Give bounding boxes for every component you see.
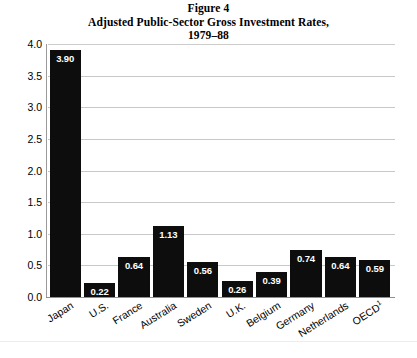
bar-value-label: 0.64 [325, 260, 356, 271]
bar-value-label: 3.90 [50, 53, 81, 64]
y-axis-line [46, 44, 47, 298]
bar: 0.74 [290, 250, 321, 297]
bar-value-label: 0.64 [118, 260, 149, 271]
chart-title: Figure 4 Adjusted Public-Sector Gross In… [0, 2, 417, 43]
figure-container: Figure 4 Adjusted Public-Sector Gross In… [0, 0, 417, 358]
page-bottom-rule [0, 341, 417, 342]
bar-value-label: 0.26 [222, 284, 253, 295]
bar: 0.64 [118, 257, 149, 297]
y-axis-tick-label: 3.0 [2, 101, 42, 113]
bar-value-label: 0.22 [84, 286, 115, 297]
y-axis-tick-labels: 0.00.51.01.52.02.53.03.54.0 [0, 0, 42, 358]
bar: 3.90 [50, 50, 81, 297]
bar-value-label: 0.74 [290, 253, 321, 264]
bar: 0.64 [325, 257, 356, 297]
bar-series: 3.900.220.641.130.560.260.390.740.640.59 [48, 44, 392, 297]
bar: 0.22 [84, 283, 115, 297]
chart-title-line-1: Figure 4 [0, 2, 417, 16]
y-axis-tick-label: 1.5 [2, 196, 42, 208]
y-axis-tick-label: 4.0 [2, 38, 42, 50]
x-axis-line [46, 297, 395, 298]
y-axis-tick-label: 0.0 [2, 291, 42, 303]
bar: 0.59 [359, 260, 390, 297]
bar: 0.39 [256, 272, 287, 297]
bar-value-label: 0.56 [187, 265, 218, 276]
footnote-marker: 1 [375, 299, 382, 307]
bar: 0.26 [222, 281, 253, 297]
y-axis-tick-label: 2.5 [2, 133, 42, 145]
bar-value-label: 0.59 [359, 263, 390, 274]
chart-title-line-3: 1979–88 [0, 29, 417, 43]
chart-title-line-2: Adjusted Public-Sector Gross Investment … [0, 16, 417, 30]
bar: 0.56 [187, 262, 218, 297]
bar-value-label: 0.39 [256, 275, 287, 286]
bar: 1.13 [153, 226, 184, 297]
y-axis-tick-label: 0.5 [2, 259, 42, 271]
y-axis-tick-label: 2.0 [2, 165, 42, 177]
y-axis-tick-label: 1.0 [2, 228, 42, 240]
x-axis-category-labels: JapanU.S.FranceAustraliaSwedenU.K.Belgiu… [48, 299, 392, 357]
y-axis-tick-label: 3.5 [2, 70, 42, 82]
bar-value-label: 1.13 [153, 229, 184, 240]
